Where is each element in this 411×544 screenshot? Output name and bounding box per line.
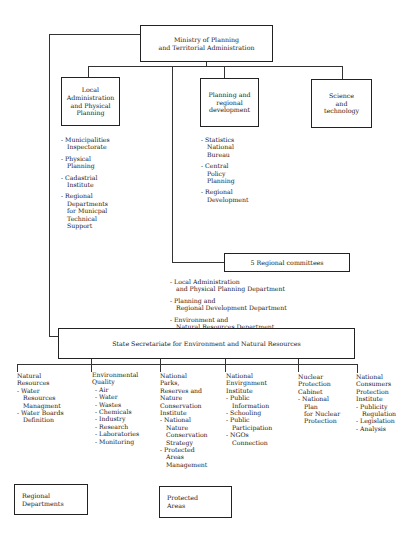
list-item: - Protected Areas Management bbox=[160, 446, 226, 468]
state-secretariate-title: State Secretariate for Environment and N… bbox=[112, 340, 301, 348]
list-item: - Publicity Regulation bbox=[356, 403, 411, 418]
list-item: - Legislation bbox=[356, 417, 411, 424]
unit-nuclear-protection: Nuclear Protection Cabinet - National Pl… bbox=[298, 373, 356, 425]
list-item: - Municipalities Inspectorate bbox=[61, 136, 141, 151]
unit-heading: Nuclear Protection Cabinet bbox=[298, 373, 356, 395]
list-item: - National Plan for Nuclear Protection bbox=[298, 395, 356, 425]
unit-heading: National Envirgnment Institute bbox=[226, 372, 292, 394]
connector-to-science bbox=[342, 66, 343, 79]
list-item: - Public Information bbox=[226, 394, 292, 409]
list-item: - Chemicals bbox=[92, 408, 158, 415]
state-secretariate-box: State Secretariate for Environment and N… bbox=[58, 328, 355, 359]
regional-committees-box: 5 Regional committees bbox=[224, 253, 350, 272]
list-item: - Research bbox=[92, 423, 158, 430]
unit-consumers-protection: National Consumers Protection Institute … bbox=[356, 373, 411, 432]
unit-heading: National Parks, Reserves and Nature Cons… bbox=[160, 372, 226, 416]
list-item: - Public Participation bbox=[226, 416, 292, 431]
science-box: Science and technology bbox=[311, 79, 372, 128]
list-item: - Water bbox=[92, 393, 158, 400]
protected-areas-box: Protected Areas bbox=[159, 486, 232, 518]
list-item: - Cadastrial Institute bbox=[61, 174, 141, 189]
list-item: - Central Policy Planning bbox=[201, 162, 281, 184]
unit-national-parks: National Parks, Reserves and Nature Cons… bbox=[160, 372, 226, 468]
list-item: - Water Boards Definition bbox=[17, 409, 87, 424]
ministry-title: Ministry of Planning and Territorial Adm… bbox=[159, 36, 255, 51]
local-admin-box: Local Administration and Physical Planni… bbox=[61, 77, 120, 126]
connector-units-bus bbox=[17, 364, 358, 365]
local-admin-list: - Municipalities Inspectorate - Physical… bbox=[61, 136, 141, 233]
list-item: - Statistics National Bureau bbox=[201, 136, 281, 158]
list-item: - Water Resources Managment bbox=[17, 387, 87, 409]
list-item: - Physical Planning bbox=[61, 155, 141, 170]
connector-unit-1 bbox=[17, 364, 18, 372]
list-item: - Schooling bbox=[226, 409, 292, 416]
unit-environmental-quality: Environmental Quality - Air - Water - Wa… bbox=[92, 371, 158, 445]
connector-to-committees bbox=[172, 66, 173, 263]
unit-natural-resources: Natural Resources - Water Resources Mana… bbox=[17, 372, 87, 424]
list-item: - Analysis bbox=[356, 425, 411, 432]
connector-to-planning bbox=[224, 66, 225, 78]
regional-departments-label: Regional Departments bbox=[22, 492, 64, 507]
regional-committees-title: 5 Regional committees bbox=[250, 259, 323, 267]
list-item: - National Nature Conservation Strategy bbox=[160, 416, 226, 446]
planning-list: - Statistics National Bureau - Central P… bbox=[201, 136, 281, 207]
list-item: - NGOs Connection bbox=[226, 431, 292, 446]
unit-national-environment-institute: National Envirgnment Institute - Public … bbox=[226, 372, 292, 446]
planning-box: Planning and regional development bbox=[200, 78, 259, 127]
unit-heading: National Consumers Protection Institute bbox=[356, 373, 411, 403]
regional-committees-list: - Local Administration and Physical Plan… bbox=[170, 278, 350, 334]
list-item: - Regional Departments for Municpal Tech… bbox=[61, 192, 141, 229]
list-item: - Regional Development bbox=[201, 188, 281, 203]
connector-unit-2 bbox=[91, 358, 92, 372]
unit-heading: Environmental Quality bbox=[92, 371, 158, 386]
regional-departments-box: Regional Departments bbox=[14, 484, 88, 515]
list-item: - Monitoring bbox=[92, 438, 158, 445]
list-item: - Industry bbox=[92, 415, 158, 422]
connector-committees-h bbox=[172, 262, 224, 263]
list-item: - Air bbox=[92, 386, 158, 393]
list-item: - Planning and Regional Development Depa… bbox=[170, 297, 350, 312]
connector-to-local-admin bbox=[88, 66, 89, 77]
connector-unit-4 bbox=[225, 358, 226, 372]
list-item: - Local Administration and Physical Plan… bbox=[170, 278, 350, 293]
connector-unit-3 bbox=[160, 358, 161, 372]
protected-areas-label: Protected Areas bbox=[167, 494, 198, 509]
connector-ministry-bus bbox=[88, 66, 343, 67]
unit-heading: Natural Resources bbox=[17, 372, 87, 387]
list-item: - Laboratories bbox=[92, 430, 158, 437]
connector-left-spine bbox=[49, 34, 50, 337]
connector-unit-6 bbox=[357, 364, 358, 373]
local-admin-title: Local Administration and Physical Planni… bbox=[67, 86, 115, 116]
ministry-box: Ministry of Planning and Territorial Adm… bbox=[140, 25, 273, 62]
list-item: - Wastes bbox=[92, 401, 158, 408]
science-title: Science and technology bbox=[324, 92, 359, 115]
planning-title: Planning and regional development bbox=[208, 91, 250, 114]
connector-unit-5 bbox=[298, 358, 299, 372]
connector-ministry-left bbox=[49, 34, 140, 35]
